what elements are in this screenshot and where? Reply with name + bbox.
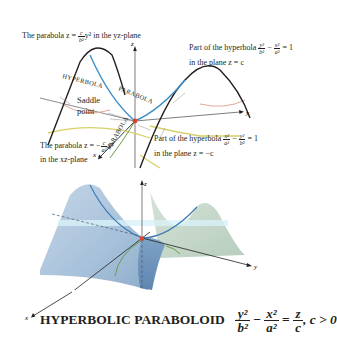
caption-frac-y: y²b² [235, 307, 249, 334]
annotation-saddle-point: Saddle point [77, 95, 100, 117]
caption-condition: , c > 0 [303, 312, 337, 327]
y-axis-label-bottom: y [253, 263, 258, 271]
x-axis-label-bottom: x [24, 314, 29, 322]
shaded-saddle-surface: z y [0, 180, 329, 290]
label-parabola-top: PARABOLA [118, 84, 155, 104]
caption-frac-z: zc [293, 307, 303, 334]
annotation-hyperbola-z-c: Part of the hyperbola y²b² − x²a² = 1 in… [189, 42, 293, 67]
annotation-yz-parabola: The parabola z = cb²y² in the yz-plane [22, 30, 141, 43]
caption-frac-x: x²a² [264, 307, 278, 334]
bottom-diagram: z y [0, 180, 329, 290]
annotation-hyperbola-z-neg-c: Part of the hyperbola x²a² − y²b² = 1 in… [154, 133, 258, 158]
caption: HYPERBOLIC PARABOLOID y²b² − x²a² = zc, … [40, 307, 337, 334]
caption-title: HYPERBOLIC PARABOLOID [40, 312, 225, 327]
annotation-xz-parabola: The parabola z = −ca²x² in the xz-plane [40, 140, 114, 164]
z-axis-label-bottom: z [143, 180, 147, 188]
label-hyperbola: HYPERBOLA [62, 72, 104, 89]
top-diagram: HYPERBOLA PARABOLA PARABOLA z y x The pa… [0, 0, 329, 180]
